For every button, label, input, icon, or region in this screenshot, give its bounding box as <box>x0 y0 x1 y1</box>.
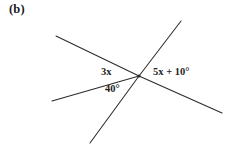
angle-diagram <box>0 0 237 146</box>
angle-label-3x: 3x <box>101 67 112 78</box>
vertex-point <box>137 74 140 77</box>
upper-left-ray <box>56 36 139 76</box>
angle-label-40-degrees: 40° <box>105 84 120 95</box>
lower-right-ray <box>139 76 222 113</box>
figure-container: (b) 3x 40° 5x + 10° <box>0 0 237 146</box>
lower-left-ray <box>52 76 139 101</box>
angle-label-5x-plus-10: 5x + 10° <box>153 67 189 78</box>
